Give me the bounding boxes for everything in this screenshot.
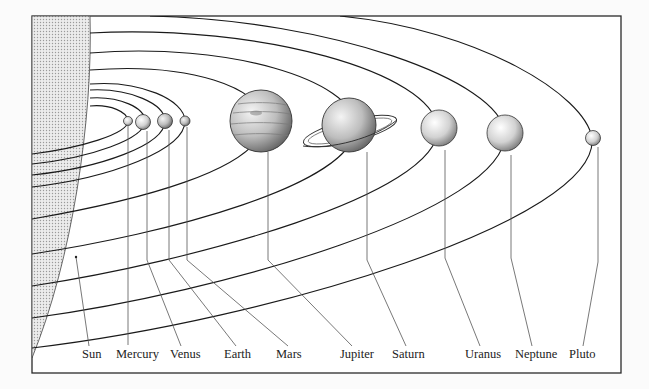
sun-dot: [75, 256, 77, 258]
label-earth: Earth: [224, 347, 252, 361]
planet-neptune: [487, 115, 523, 151]
label-saturn: Saturn: [392, 347, 425, 361]
label-uranus: Uranus: [465, 347, 501, 361]
planet-jupiter: [230, 90, 292, 152]
label-pluto: Pluto: [569, 347, 595, 361]
solar-system-diagram: Sun Mercury Venus Earth Mars Jupiter Sat…: [0, 0, 649, 389]
label-mercury: Mercury: [116, 347, 160, 361]
planet-venus: [136, 115, 151, 130]
planet-earth: [158, 114, 173, 129]
label-sun: Sun: [82, 347, 102, 361]
planet-mercury: [124, 117, 133, 126]
planet-uranus: [421, 110, 457, 146]
label-venus: Venus: [170, 347, 201, 361]
label-neptune: Neptune: [515, 347, 558, 361]
label-jupiter: Jupiter: [340, 347, 375, 361]
label-mars: Mars: [276, 347, 302, 361]
planet-mars: [180, 116, 190, 126]
planet-pluto: [586, 131, 601, 146]
